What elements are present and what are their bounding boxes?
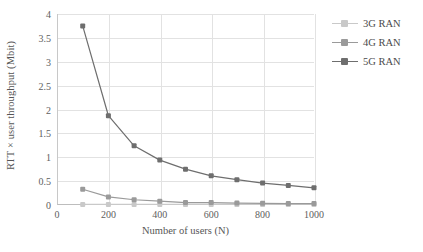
data-point-marker [260,201,265,206]
x-tick-label: 1000 [289,209,339,220]
data-point-marker [234,177,239,182]
data-point-marker [312,201,317,206]
data-point-marker [80,23,85,28]
x-tick-label: 0 [32,209,82,220]
legend-item[interactable]: 4G RAN [332,33,420,52]
legend-label: 3G RAN [358,18,401,29]
x-tick-label: 600 [186,209,236,220]
data-point-marker [209,173,214,178]
y-tick-label: 3.5 [5,32,51,43]
data-point-marker [106,113,111,118]
series-line [83,26,314,188]
data-point-marker [132,197,137,202]
x-tick-label: 800 [238,209,288,220]
legend: 3G RAN4G RAN5G RAN [332,14,420,71]
y-tick-label: 1.5 [5,128,51,139]
x-tick-label: 200 [83,209,133,220]
y-tick-label: 4 [5,9,51,20]
data-point-marker [157,199,162,204]
data-point-marker [183,167,188,172]
legend-label: 4G RAN [358,37,401,48]
legend-swatch-icon [332,37,358,49]
series-4g-ran [80,187,316,206]
legend-swatch-icon [332,56,358,68]
legend-swatch-icon [332,18,358,30]
data-point-marker [106,194,111,199]
data-point-marker [106,202,111,207]
data-point-marker [286,201,291,206]
series-layer [57,14,314,205]
data-point-marker [80,202,85,207]
y-tick-label: 2 [5,104,51,115]
legend-item[interactable]: 3G RAN [332,14,420,33]
y-tick-label: 3 [5,56,51,67]
y-tick-label: 1 [5,152,51,163]
data-point-marker [312,185,317,190]
data-point-marker [183,200,188,205]
series-line [83,189,314,203]
data-point-marker [80,187,85,192]
series-5g-ran [80,23,316,190]
legend-label: 5G RAN [358,56,401,67]
x-axis-title: Number of users (N) [57,225,314,236]
data-point-marker [132,143,137,148]
data-point-marker [209,200,214,205]
legend-item[interactable]: 5G RAN [332,52,420,71]
gridline-vertical [315,14,316,204]
data-point-marker [157,158,162,163]
data-point-marker [260,181,265,186]
y-tick-label: 0.5 [5,176,51,187]
data-point-marker [286,183,291,188]
data-point-marker [132,202,137,207]
y-tick-label: 2.5 [5,80,51,91]
x-tick-label: 400 [135,209,185,220]
line-chart: RTT × user throughput (Mbit) 00.511.522.… [0,0,423,252]
data-point-marker [234,201,239,206]
